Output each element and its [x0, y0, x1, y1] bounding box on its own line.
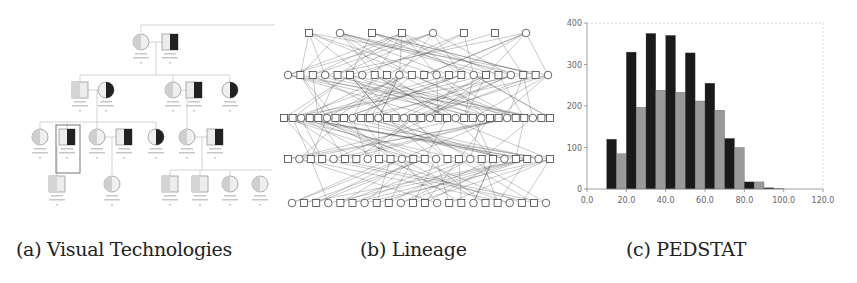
x-tick-label: 20.0 [617, 196, 635, 205]
dark-bar [705, 83, 715, 189]
gray-bar [636, 107, 646, 189]
y-tick-label: 0 [577, 185, 582, 194]
gray-bar [617, 154, 627, 189]
dark-bar [744, 182, 754, 189]
x-tick-label: 0.0 [581, 196, 594, 205]
dark-bar [666, 35, 676, 189]
y-tick-label: 100 [567, 144, 582, 153]
pedigree-diagram [20, 10, 280, 220]
dark-bar [685, 53, 695, 189]
caption-pedstat: (c) PEDSTAT [626, 238, 746, 260]
y-tick-label: 200 [567, 102, 582, 111]
dark-bar [646, 33, 656, 189]
gray-bar [676, 92, 686, 189]
lineage-panel [280, 20, 560, 220]
gray-bar [695, 101, 705, 189]
x-tick-label: 60.0 [696, 196, 714, 205]
dark-bar [607, 139, 617, 189]
pedstat-panel: 01002003004000.020.040.060.080.0100.0120… [560, 10, 850, 230]
gray-bar [715, 110, 725, 189]
x-tick-label: 100.0 [772, 196, 795, 205]
x-tick-label: 120.0 [812, 196, 835, 205]
pedstat-histogram: 01002003004000.020.040.060.080.0100.0120… [560, 10, 850, 230]
y-tick-label: 300 [567, 61, 582, 70]
x-tick-label: 40.0 [657, 196, 675, 205]
lineage-graph [280, 20, 560, 220]
gray-bar [656, 90, 666, 189]
gray-bar [735, 148, 745, 190]
caption-visual-technologies: (a) Visual Technologies [16, 238, 232, 260]
pedigree-panel [20, 10, 280, 220]
dark-bar [725, 138, 735, 189]
gray-bar [754, 182, 764, 189]
caption-lineage: (b) Lineage [360, 238, 467, 260]
dark-bar [626, 52, 636, 189]
x-tick-label: 80.0 [735, 196, 753, 205]
y-tick-label: 400 [567, 19, 582, 28]
